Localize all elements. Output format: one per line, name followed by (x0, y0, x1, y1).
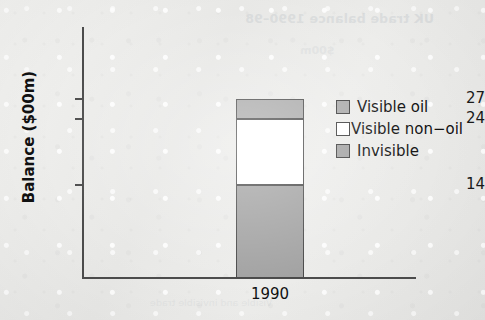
y-axis-line (82, 27, 84, 279)
chart-legend: Visible oil Visible non−oil Invisible (336, 96, 463, 162)
legend-swatch-visible-oil (336, 100, 350, 114)
bar-segment-visible-non-oil[interactable] (236, 119, 304, 185)
legend-swatch-invisible (336, 144, 350, 158)
bar-segment-invisible[interactable] (236, 185, 304, 278)
legend-swatch-visible-non-oil (336, 122, 350, 136)
legend-label-invisible: Invisible (357, 144, 419, 159)
y-tick-mark-27 (75, 98, 84, 100)
y-axis-title: Balance ($00m) (20, 42, 38, 232)
y-tick-mark-14 (75, 184, 84, 186)
x-axis-tick-label-1990: 1990 (206, 285, 334, 303)
stacked-bar-chart: Balance ($00m) 27 24 14 1990 Visible oil… (0, 0, 485, 320)
bar-segment-visible-oil[interactable] (236, 99, 304, 119)
y-tick-label-14: 14 (425, 177, 485, 192)
legend-item-visible-non-oil[interactable]: Visible non−oil (336, 118, 463, 140)
legend-label-visible-oil: Visible oil (357, 100, 428, 115)
y-tick-mark-24 (75, 118, 84, 120)
legend-item-visible-oil[interactable]: Visible oil (336, 96, 463, 118)
legend-item-invisible[interactable]: Invisible (336, 140, 463, 162)
legend-label-visible-non-oil: Visible non−oil (351, 122, 463, 137)
bar-1990[interactable] (236, 99, 304, 278)
